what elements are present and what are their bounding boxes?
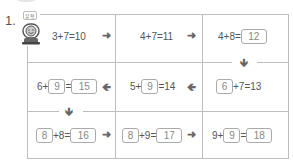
arrow-right-icon: ➜ xyxy=(187,128,196,141)
answer-box[interactable]: 8 xyxy=(36,128,53,143)
grid-row-divider-1b xyxy=(257,62,289,63)
equation-r1c1: 3+7=10 xyxy=(52,28,86,44)
equation-text: 4+8= xyxy=(218,31,241,42)
grid-right-border xyxy=(288,14,289,159)
equation-text: +8= xyxy=(53,130,70,141)
equation-r3c2: 8 +9= 17 xyxy=(122,127,182,143)
answer-box[interactable]: 12 xyxy=(241,29,267,44)
equation-grid: 3+7=10 ➜ 4+7=11 ➜ 4+8= 12 🡻 6+ 9 = 15 🡸 … xyxy=(27,14,289,159)
answer-box[interactable]: 16 xyxy=(70,128,96,143)
grid-row-divider-2a xyxy=(27,111,59,112)
arrow-right-icon: ➜ xyxy=(102,29,111,42)
equation-text: 6+ xyxy=(37,81,48,92)
answer-box[interactable]: 15 xyxy=(71,79,97,94)
equation-text: 4+7=11 xyxy=(140,31,173,42)
answer-box[interactable]: 9 xyxy=(48,79,65,94)
equation-text: =14 xyxy=(158,81,175,92)
grid-top-border xyxy=(40,14,289,15)
equation-r3c1: 8 +8= 16 xyxy=(36,127,96,143)
problem-number: 1. xyxy=(5,13,16,28)
equation-text: +7=13 xyxy=(233,81,261,92)
equation-r2c2: 5+ 9 =14 xyxy=(130,78,175,94)
equation-text: 3+7=10 xyxy=(52,31,86,42)
arrow-left-icon: 🡸 xyxy=(187,79,196,98)
equation-r2c3: 6 +7=13 xyxy=(216,78,261,94)
arrow-down-icon: 🡻 xyxy=(63,106,75,116)
grid-bottom-border xyxy=(27,158,289,159)
equation-text: 9+ xyxy=(212,130,223,141)
equation-r1c3: 4+8= 12 xyxy=(218,28,267,44)
arrow-left-icon: 🡸 xyxy=(102,79,111,98)
answer-box[interactable]: 9 xyxy=(141,79,158,94)
equation-r3c3: 9+ 9 = 18 xyxy=(212,127,272,143)
grid-col-divider-2 xyxy=(202,14,203,159)
answer-box[interactable]: 9 xyxy=(223,128,240,143)
equation-r1c2: 4+7=11 xyxy=(140,28,173,44)
answer-box[interactable]: 18 xyxy=(246,128,272,143)
decorative-header-tab xyxy=(8,0,44,2)
arrow-right-icon: ➜ xyxy=(102,128,111,141)
answer-box[interactable]: 8 xyxy=(122,128,139,143)
answer-box[interactable]: 6 xyxy=(216,79,233,94)
equation-text: 5+ xyxy=(130,81,141,92)
equation-text: +9= xyxy=(139,130,156,141)
equation-r2c1: 6+ 9 = 15 xyxy=(37,78,97,94)
answer-box[interactable]: 17 xyxy=(156,128,182,143)
grid-row-divider-2 xyxy=(83,111,289,112)
grid-col-divider-1 xyxy=(115,14,116,159)
arrow-down-icon: 🡻 xyxy=(238,57,250,67)
grid-left-border xyxy=(27,46,28,159)
arrow-right-icon: ➜ xyxy=(187,29,196,42)
